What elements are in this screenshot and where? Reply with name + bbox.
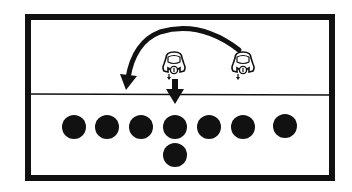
offensive-player-circle xyxy=(62,115,86,139)
offensive-player-circle xyxy=(273,114,297,138)
offensive-player-circle xyxy=(163,143,187,167)
offensive-player-circle xyxy=(197,115,221,139)
football-play-diagram xyxy=(0,0,352,192)
offensive-player-circle xyxy=(129,115,153,139)
offensive-player-circle xyxy=(163,115,187,139)
offensive-player-circle xyxy=(231,115,255,139)
offensive-player-circle xyxy=(95,115,119,139)
